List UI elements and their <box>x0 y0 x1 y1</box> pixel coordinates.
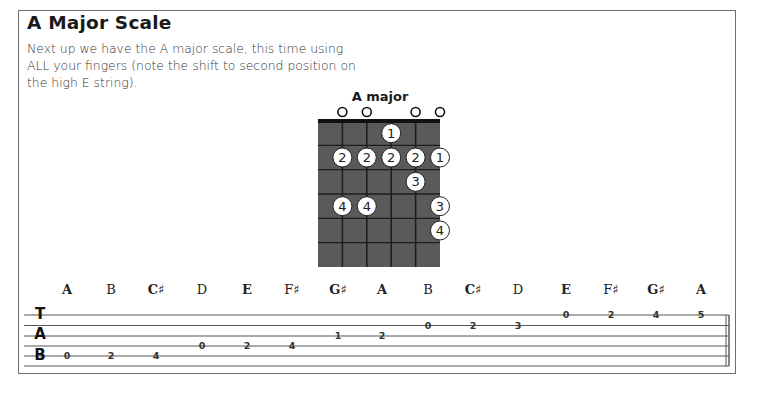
tab-fret-number: 0 <box>421 321 435 331</box>
tab-fret-number: 2 <box>375 331 389 341</box>
tab-fret-number: 1 <box>331 331 345 341</box>
tab-fret-number: 5 <box>694 310 708 320</box>
tab-fret-number: 0 <box>195 341 209 351</box>
tab-fret-number: 4 <box>149 351 163 361</box>
tab-fret-number: 0 <box>559 310 573 320</box>
tab-fret-number: 2 <box>604 310 618 320</box>
tab-clef-letter: B <box>33 349 47 362</box>
tab-fret-number: 3 <box>511 321 525 331</box>
tab-fret-number: 0 <box>60 351 74 361</box>
tab-fret-number: 4 <box>285 341 299 351</box>
tab-fret-number: 2 <box>240 341 254 351</box>
tab-clef-letter: T <box>33 308 47 321</box>
tab-clef-letter: A <box>33 328 47 341</box>
tab-fret-number: 4 <box>649 310 663 320</box>
tab-fret-number: 2 <box>104 351 118 361</box>
tab-fret-number: 2 <box>466 321 480 331</box>
